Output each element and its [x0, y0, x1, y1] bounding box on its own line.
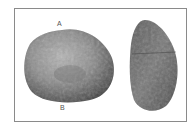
- label-a: A: [57, 20, 62, 27]
- stone-left: [24, 29, 114, 102]
- seed-right: [130, 20, 178, 111]
- label-b: B: [60, 104, 65, 111]
- figure-illustration: [0, 0, 195, 128]
